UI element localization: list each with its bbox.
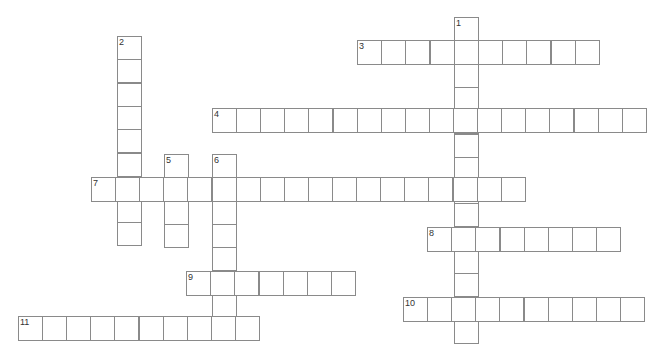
crossword-cell[interactable]	[454, 320, 479, 344]
crossword-cell[interactable]	[117, 222, 142, 246]
crossword-cell[interactable]	[357, 108, 382, 133]
crossword-cell[interactable]	[308, 177, 333, 202]
crossword-cell[interactable]	[572, 227, 597, 252]
crossword-cell[interactable]	[90, 316, 115, 341]
crossword-cell[interactable]	[283, 271, 308, 296]
crossword-cell[interactable]	[187, 316, 212, 341]
crossword-cell[interactable]: 9	[186, 271, 211, 296]
crossword-cell[interactable]	[499, 297, 524, 322]
crossword-cell[interactable]	[164, 224, 189, 248]
crossword-cell[interactable]	[475, 227, 500, 252]
crossword-cell[interactable]	[212, 177, 237, 202]
crossword-cell[interactable]	[405, 108, 430, 133]
crossword-cell[interactable]	[284, 177, 309, 202]
crossword-cell[interactable]	[210, 271, 235, 296]
crossword-cell[interactable]	[42, 316, 67, 341]
crossword-cell[interactable]	[235, 316, 260, 341]
crossword-cell[interactable]	[551, 40, 576, 65]
crossword-cell[interactable]	[117, 153, 142, 177]
crossword-cell[interactable]	[548, 227, 573, 252]
crossword-cell[interactable]	[430, 40, 455, 65]
crossword-cell[interactable]	[260, 177, 285, 202]
crossword-cell[interactable]	[526, 40, 551, 65]
crossword-cell[interactable]	[187, 177, 212, 202]
crossword-cell[interactable]	[454, 64, 479, 88]
crossword-cell[interactable]	[117, 129, 142, 153]
crossword-cell[interactable]	[475, 297, 500, 322]
crossword-cell[interactable]	[575, 40, 600, 65]
crossword-cell[interactable]: 11	[18, 316, 43, 341]
crossword-cell[interactable]	[428, 177, 453, 202]
crossword-cell[interactable]	[139, 316, 164, 341]
crossword-cell[interactable]	[115, 177, 140, 202]
crossword-cell[interactable]	[454, 250, 479, 274]
crossword-cell[interactable]: 8	[427, 227, 452, 252]
crossword-cell[interactable]	[212, 224, 237, 248]
crossword-cell[interactable]	[525, 108, 550, 133]
crossword-cell[interactable]	[405, 40, 430, 65]
crossword-cell[interactable]	[212, 294, 237, 318]
crossword-cell[interactable]	[427, 297, 452, 322]
crossword-cell[interactable]	[381, 108, 406, 133]
crossword-cell[interactable]	[478, 40, 503, 65]
crossword-cell[interactable]	[598, 108, 623, 133]
crossword-cell[interactable]	[502, 40, 527, 65]
crossword-cell[interactable]	[451, 227, 476, 252]
crossword-cell[interactable]	[211, 316, 236, 341]
crossword-cell[interactable]	[453, 108, 478, 133]
crossword-cell[interactable]	[548, 297, 573, 322]
crossword-cell[interactable]	[549, 108, 574, 133]
crossword-cell[interactable]	[66, 316, 91, 341]
crossword-cell[interactable]	[333, 108, 358, 133]
crossword-cell[interactable]	[212, 247, 237, 271]
crossword-cell[interactable]	[117, 106, 142, 130]
crossword-cell[interactable]: 6	[212, 154, 237, 178]
crossword-cell[interactable]	[114, 316, 139, 341]
crossword-cell[interactable]	[477, 177, 502, 202]
crossword-cell[interactable]	[332, 177, 357, 202]
crossword-cell[interactable]	[524, 297, 549, 322]
crossword-cell[interactable]	[454, 40, 479, 65]
crossword-cell[interactable]: 2	[117, 36, 142, 60]
crossword-cell[interactable]	[117, 83, 142, 107]
crossword-cell[interactable]: 4	[212, 108, 237, 133]
crossword-cell[interactable]	[404, 177, 429, 202]
crossword-cell[interactable]	[117, 199, 142, 223]
crossword-cell[interactable]	[454, 134, 479, 158]
crossword-cell[interactable]	[163, 316, 188, 341]
crossword-cell[interactable]	[574, 108, 599, 133]
crossword-cell[interactable]	[284, 108, 309, 133]
crossword-cell[interactable]	[308, 108, 333, 133]
crossword-cell[interactable]	[139, 177, 164, 202]
crossword-cell[interactable]	[212, 201, 237, 225]
crossword-cell[interactable]	[236, 177, 261, 202]
crossword-cell[interactable]	[331, 271, 356, 296]
crossword-cell[interactable]	[429, 108, 454, 133]
crossword-cell[interactable]	[380, 177, 405, 202]
crossword-cell[interactable]	[454, 273, 479, 297]
crossword-cell[interactable]: 5	[164, 154, 189, 178]
crossword-cell[interactable]	[596, 227, 621, 252]
crossword-cell[interactable]	[501, 177, 526, 202]
crossword-cell[interactable]	[260, 108, 285, 133]
crossword-cell[interactable]	[477, 108, 502, 133]
crossword-cell[interactable]	[620, 297, 645, 322]
crossword-cell[interactable]	[596, 297, 621, 322]
crossword-cell[interactable]	[501, 108, 526, 133]
crossword-cell[interactable]	[622, 108, 647, 133]
crossword-cell[interactable]	[500, 227, 525, 252]
crossword-cell[interactable]	[572, 297, 597, 322]
crossword-cell[interactable]	[259, 271, 284, 296]
crossword-cell[interactable]: 7	[91, 177, 116, 202]
crossword-cell[interactable]	[236, 108, 261, 133]
crossword-cell[interactable]	[307, 271, 332, 296]
crossword-cell[interactable]: 1	[454, 17, 479, 41]
crossword-cell[interactable]	[234, 271, 259, 296]
crossword-cell[interactable]	[117, 59, 142, 83]
crossword-cell[interactable]	[381, 40, 406, 65]
crossword-cell[interactable]	[451, 297, 476, 322]
crossword-cell[interactable]	[453, 177, 478, 202]
crossword-cell[interactable]	[163, 177, 188, 202]
crossword-cell[interactable]: 10	[403, 297, 428, 322]
crossword-cell[interactable]	[454, 203, 479, 227]
